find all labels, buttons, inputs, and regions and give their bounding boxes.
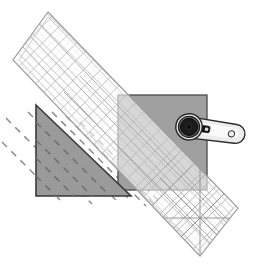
fabric-triangle-label: grey fabric triangle [4, 29, 54, 35]
diagram-title: Quilting diagram: rotary cutter trimming… [4, 5, 202, 11]
quilting-diagram-svg: Quilting diagram: rotary cutter trimming… [0, 0, 259, 269]
rotary-cutter-label: rotary cutter [4, 45, 36, 51]
seam-guides-label: dashed seam guide lines [4, 37, 70, 43]
cutter-hub [186, 124, 192, 130]
cutter-switch-notch [205, 128, 209, 132]
fabric-square-label: grey fabric square [4, 21, 53, 27]
ruler-label: quilting ruler [4, 13, 37, 19]
cutter-hang-hole [228, 130, 235, 137]
diagram-canvas: Quilting diagram: rotary cutter trimming… [0, 0, 259, 269]
